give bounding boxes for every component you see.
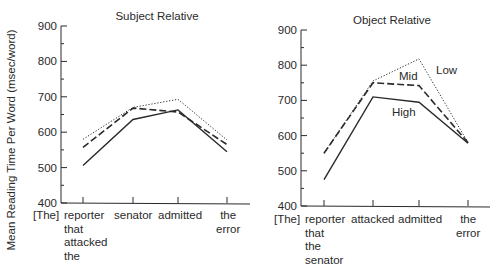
- x-label-senator: senator: [114, 209, 152, 223]
- y-tick-label: 700: [278, 94, 297, 106]
- x-label-reporter-that-attacked-the: reporter that attacked the: [64, 209, 107, 263]
- x-axis: [301, 206, 490, 207]
- object-relative-panel: Object Relative Low Mid High 40050060070…: [278, 14, 490, 212]
- label-mid: Mid: [399, 70, 418, 82]
- x-label-reporter-that-the-senator: reporter that the senator: [305, 213, 345, 267]
- y-tick-label: 500: [278, 165, 297, 177]
- y-tick-label: 600: [38, 126, 57, 138]
- y-tick-label: 400: [38, 197, 57, 209]
- figure: Mean Reading Time Per Word (msec/word) S…: [0, 0, 498, 274]
- x-label-the-right: [The]: [274, 213, 300, 227]
- y-tick-label: 800: [38, 55, 57, 67]
- x-label-the-left: [The]: [33, 209, 59, 223]
- x-label-the-error-right: the error: [456, 213, 480, 240]
- y-tick-label: 800: [278, 59, 297, 71]
- x-label-attacked: attacked: [351, 213, 394, 227]
- y-tick-label: 600: [278, 130, 297, 142]
- y-tick-label: 700: [38, 91, 57, 103]
- x-label-admitted-right: admitted: [398, 213, 442, 227]
- y-tick-label: 900: [38, 20, 57, 32]
- y-axis-label-container: Mean Reading Time Per Word (msec/word): [4, 30, 18, 250]
- subject-relative-panel: Subject Relative 400500600700800900: [38, 10, 250, 209]
- label-high: High: [392, 106, 416, 118]
- series-line-mid: [83, 108, 227, 147]
- y-axis-label: Mean Reading Time Per Word (msec/word): [5, 30, 17, 251]
- label-low: Low: [436, 64, 458, 76]
- x-label-the-error-left: the error: [216, 209, 240, 236]
- y-tick-label: 500: [38, 162, 57, 174]
- y-tick-label: 400: [278, 200, 297, 212]
- object-relative-title: Object Relative: [353, 14, 431, 26]
- series-line-high: [83, 110, 227, 166]
- x-axis: [61, 203, 250, 204]
- x-label-admitted-left: admitted: [158, 209, 202, 223]
- y-tick-label: 900: [278, 24, 297, 36]
- subject-relative-title: Subject Relative: [115, 10, 198, 22]
